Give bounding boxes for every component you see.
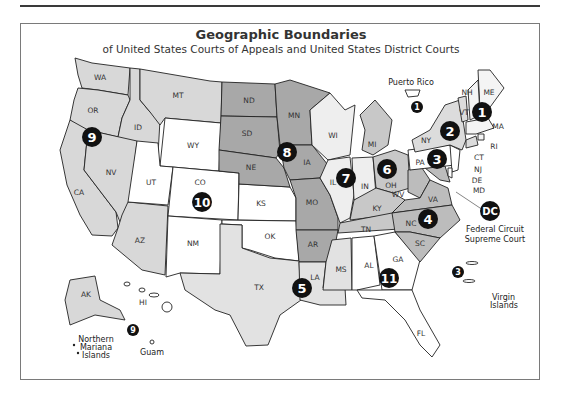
svg-text:RI: RI — [490, 142, 497, 151]
svg-text:ND: ND — [243, 96, 255, 105]
state-AK[interactable] — [65, 276, 125, 325]
svg-text:IL: IL — [330, 178, 337, 187]
svg-text:VT: VT — [459, 108, 469, 117]
nmi-shape[interactable] — [73, 344, 75, 346]
svg-text:OH: OH — [385, 181, 397, 190]
svg-text:11: 11 — [381, 272, 398, 286]
state-KS[interactable] — [238, 184, 296, 221]
state-HI[interactable] — [124, 282, 172, 312]
svg-text:GA: GA — [393, 255, 405, 264]
svg-text:TX: TX — [253, 283, 264, 292]
svg-text:9: 9 — [130, 326, 136, 335]
circuit-badge-2[interactable]: 2 — [440, 121, 460, 141]
guam-label: Guam — [140, 348, 164, 357]
svg-text:UT: UT — [146, 178, 156, 187]
svg-text:AR: AR — [308, 240, 318, 249]
svg-text:AZ: AZ — [135, 236, 145, 245]
svg-text:MT: MT — [172, 91, 183, 100]
federal-circuit-label: Federal Circuit — [466, 225, 524, 234]
svg-text:NH: NH — [461, 88, 472, 97]
svg-text:4: 4 — [423, 212, 432, 227]
svg-text:2: 2 — [445, 124, 454, 139]
svg-text:OR: OR — [87, 106, 98, 115]
svg-text:CA: CA — [74, 188, 85, 197]
svg-text:3: 3 — [432, 152, 441, 167]
svg-text:MO: MO — [306, 198, 318, 207]
svg-text:5: 5 — [297, 281, 306, 296]
svg-text:NV: NV — [106, 168, 118, 177]
state-DE[interactable] — [448, 168, 452, 178]
svg-text:PA: PA — [415, 158, 425, 167]
svg-text:CO: CO — [194, 178, 205, 187]
svg-text:6: 6 — [382, 162, 391, 177]
svg-text:LA: LA — [310, 273, 320, 282]
virgin-islands-label-2: Islands — [490, 301, 518, 310]
puerto-rico-label: Puerto Rico — [388, 78, 434, 87]
circuit-badge-10[interactable]: 10 — [192, 192, 212, 212]
svg-text:ME: ME — [483, 88, 494, 97]
svg-text:WV: WV — [392, 190, 405, 199]
svg-text:1: 1 — [414, 103, 420, 112]
svg-text:IA: IA — [303, 158, 311, 167]
svg-text:WI: WI — [328, 131, 338, 140]
circuit-badge-9[interactable]: 9 — [82, 127, 102, 147]
svg-text:VA: VA — [428, 195, 439, 204]
circuit-badge-6[interactable]: 6 — [377, 159, 397, 179]
svg-text:IN: IN — [361, 182, 369, 191]
svg-text:SD: SD — [242, 129, 253, 138]
nmi-label-3: Islands — [82, 351, 110, 360]
circuit-badge-dc[interactable]: DC — [480, 201, 500, 221]
svg-text:WA: WA — [94, 73, 107, 82]
svg-text:MI: MI — [368, 140, 377, 149]
svg-text:KS: KS — [256, 199, 266, 208]
svg-text:MD: MD — [473, 186, 485, 195]
svg-text:KY: KY — [372, 204, 382, 213]
svg-text:3: 3 — [455, 268, 461, 277]
svg-text:NE: NE — [246, 163, 257, 172]
state-FL[interactable] — [357, 290, 440, 357]
svg-text:8: 8 — [282, 145, 291, 160]
circuit-badge-1[interactable]: 1 — [472, 102, 492, 122]
virgin-islands-shape-2[interactable] — [463, 280, 475, 283]
svg-text:DC: DC — [482, 206, 498, 217]
circuit-badge-1-pr[interactable]: 1 — [411, 101, 423, 113]
svg-text:NJ: NJ — [474, 165, 482, 174]
svg-text:DE: DE — [472, 176, 483, 185]
supreme-court-label: Supreme Court — [465, 235, 526, 244]
svg-text:AL: AL — [364, 261, 374, 270]
circuit-badge-7[interactable]: 7 — [336, 168, 356, 188]
circuit-badge-3[interactable]: 3 — [427, 149, 447, 169]
circuit-badge-9-pacific[interactable]: 9 — [127, 324, 139, 336]
svg-text:7: 7 — [341, 171, 350, 186]
svg-text:MN: MN — [288, 111, 300, 120]
state-RI[interactable] — [478, 134, 484, 140]
svg-text:AK: AK — [81, 290, 92, 299]
svg-text:ID: ID — [134, 123, 142, 132]
svg-text:9: 9 — [87, 130, 96, 145]
svg-text:HI: HI — [139, 298, 147, 307]
guam-shape[interactable] — [150, 340, 154, 344]
puerto-rico-shape[interactable] — [405, 90, 420, 97]
svg-text:CT: CT — [474, 153, 484, 162]
svg-text:MA: MA — [492, 122, 504, 131]
virgin-islands-shape[interactable] — [466, 262, 478, 265]
circuit-badge-8[interactable]: 8 — [277, 142, 297, 162]
circuit-badge-3-vi[interactable]: 3 — [452, 266, 464, 278]
svg-text:NM: NM — [187, 239, 199, 248]
svg-text:10: 10 — [194, 196, 211, 210]
nmi-shape-2[interactable] — [77, 352, 79, 354]
us-courts-map: WA OR CA ID NV MT AZ WY UT CO NM KS OK N… — [0, 0, 562, 394]
svg-text:MS: MS — [335, 265, 346, 274]
svg-text:SC: SC — [415, 239, 425, 248]
circuit-badge-4[interactable]: 4 — [418, 209, 438, 229]
state-CT[interactable] — [466, 136, 478, 148]
svg-text:NC: NC — [406, 219, 417, 228]
svg-text:1: 1 — [477, 105, 486, 120]
svg-text:TN: TN — [360, 225, 371, 234]
svg-text:WY: WY — [187, 141, 199, 150]
svg-text:FL: FL — [417, 329, 426, 338]
svg-text:OK: OK — [265, 232, 277, 241]
svg-text:NY: NY — [421, 136, 432, 145]
circuit-badge-5[interactable]: 5 — [292, 278, 312, 298]
circuit-badge-11[interactable]: 11 — [379, 268, 399, 288]
